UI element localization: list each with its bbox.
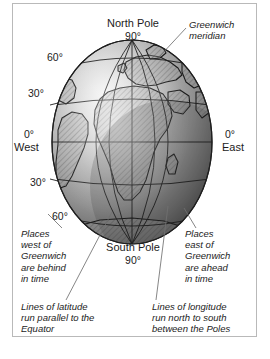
south-pole-label: South Pole [94,241,172,254]
east-degrees-label: 0° [225,128,235,140]
north-pole-label: North Pole [95,17,171,30]
latitude-30-south-label: 30° [30,176,46,188]
lines-of-longitude-callout: Lines of longitude run north to south be… [152,301,230,335]
latitude-60-north-label: 60° [47,51,63,63]
greenwich-meridian-callout: Greenwich meridian [189,19,234,41]
places-east-callout: Places east of Greenwich are ahead in ti… [185,228,230,284]
places-west-callout: Places west of Greenwich are behind in t… [21,228,66,284]
tick-30-south [50,179,58,181]
north-pole-degrees: 90° [95,30,171,42]
lines-of-latitude-callout: Lines of latitude run parallel to the Eq… [21,301,94,335]
west-degrees-label: 0° [24,128,34,140]
tick-30-north [50,103,58,105]
globe-diagram-figure: North Pole 90° South Pole 90° 60° 30° 30… [0,0,270,359]
east-hemisphere-label: East [222,141,244,154]
west-hemisphere-label: West [14,141,39,154]
latitude-60-south-label: 60° [52,210,68,222]
latitude-30-north-label: 30° [28,87,44,99]
south-pole-degrees: 90° [94,254,172,266]
